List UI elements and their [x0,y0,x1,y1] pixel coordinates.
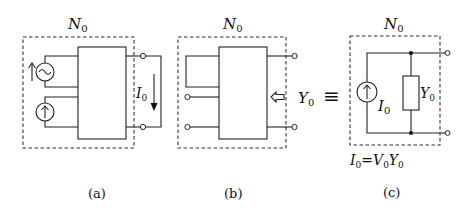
equation-label: I0=V0Y0 [349,152,404,170]
terminal-a-bottom [140,124,145,129]
looking-in-arrow-icon [271,92,284,102]
terminal-b-bottom [292,124,297,129]
caption-c: (c) [383,185,400,200]
current-arrow-icon [151,74,158,111]
circuit-figure: N0 I0 (a) [0,0,470,220]
panel-b: N0 Y0 (b) [178,15,314,201]
network-label-b: N0 [222,15,243,34]
terminal-a-top [140,53,145,58]
admittance-label-c: Y0 [420,85,435,103]
caption-a: (a) [88,186,106,201]
admittance-element [403,76,419,110]
open-terminal-1 [185,94,190,99]
source-label-c: I0 [377,97,390,116]
current-label-a: I0 [135,85,148,103]
norton-current-source-icon [357,82,377,102]
open-terminal-2 [185,124,190,129]
panel-a: N0 I0 (a) [23,15,161,201]
ac-voltage-source-icon [29,56,79,87]
terminal-c-top [445,51,450,56]
network-label-a: N0 [67,15,88,34]
equivalence-symbol: ≡ [323,84,340,108]
network-label-c: N0 [383,15,404,34]
network-block-b [219,47,267,139]
terminal-c-bottom [445,131,450,136]
caption-b: (b) [224,186,242,201]
shorted-port-wire [186,56,219,87]
current-source-icon [36,97,78,127]
short-circuit-wire [146,56,161,127]
network-block-a [78,47,126,139]
admittance-label-b: Y0 [298,89,314,108]
terminal-b-top [292,53,297,58]
junction-dot-bottom [409,131,413,135]
junction-dot-top [409,51,413,55]
panel-c: N0 I0 Y0 I0=V0Y0 (c) [349,15,450,200]
